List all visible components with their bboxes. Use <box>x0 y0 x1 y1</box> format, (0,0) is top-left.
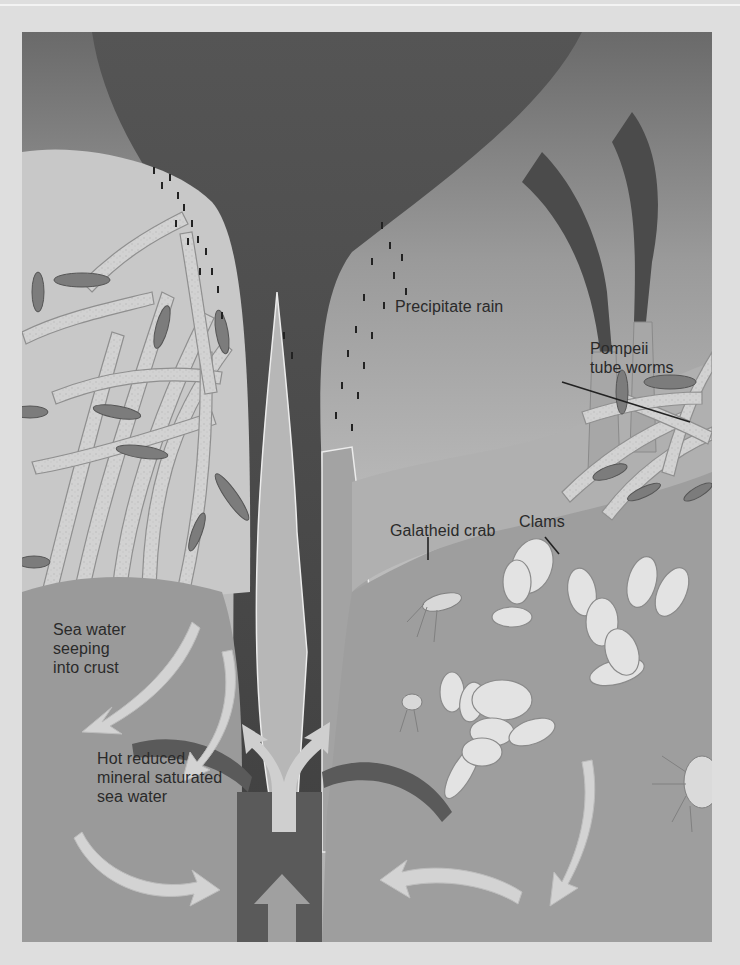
label-clams: Clams <box>519 512 565 531</box>
label-galatheid-crab: Galatheid crab <box>390 521 495 540</box>
label-pompeii-tube-worms: Pompeii tube worms <box>590 339 674 377</box>
label-hot-reduced-water: Hot reduced mineral saturated sea water <box>97 749 222 806</box>
label-precipitate-rain: Precipitate rain <box>395 297 503 316</box>
top-rule <box>0 4 740 6</box>
label-sea-water-seeping: Sea water seeping into crust <box>53 620 126 677</box>
vent-illustration: Precipitate rain Pompeii tube worms Gala… <box>22 32 712 942</box>
